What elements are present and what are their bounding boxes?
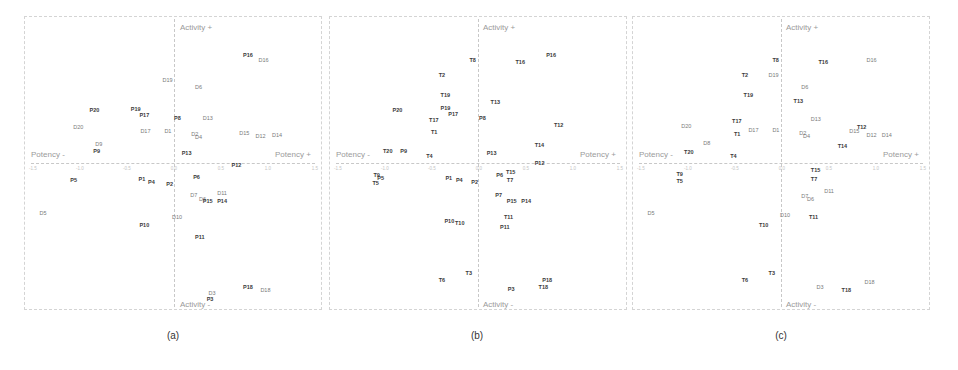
data-point-label: D1 bbox=[772, 128, 779, 134]
data-point-label: T10 bbox=[759, 223, 768, 229]
data-point-label: P18 bbox=[243, 285, 253, 291]
data-point-label: P4 bbox=[148, 180, 155, 186]
x-tick-label: -0.5 bbox=[428, 166, 436, 171]
data-point-label: P5 bbox=[70, 178, 77, 184]
data-point-label: P9 bbox=[93, 149, 100, 155]
data-point-label: T13 bbox=[794, 99, 803, 105]
x-tick-label: 0.5 bbox=[826, 166, 832, 171]
data-point-label: P20 bbox=[90, 108, 100, 114]
data-point-label: D3 bbox=[817, 285, 824, 291]
data-point-label: T18 bbox=[842, 288, 851, 294]
data-point-label: D20 bbox=[681, 124, 691, 130]
data-point-label: P1 bbox=[445, 176, 452, 182]
data-point-label: D14 bbox=[882, 133, 892, 139]
x-tick-label: -1.0 bbox=[684, 166, 692, 171]
caption-a: (a) bbox=[167, 330, 179, 341]
potency-positive-label: Potency + bbox=[883, 150, 919, 159]
potency-negative-label: Potency - bbox=[336, 150, 370, 159]
data-point-label: D19 bbox=[769, 73, 779, 79]
data-point-label: D12 bbox=[256, 134, 266, 140]
x-tick-label: 1.5 bbox=[920, 166, 926, 171]
activity-positive-label: Activity + bbox=[483, 23, 515, 32]
potency-positive-label: Potency + bbox=[580, 150, 616, 159]
data-point-label: P18 bbox=[542, 278, 552, 284]
data-point-label: T14 bbox=[535, 143, 544, 149]
data-point-label: P10 bbox=[444, 219, 454, 225]
data-point-label: P17 bbox=[139, 113, 149, 119]
caption-c: (c) bbox=[775, 330, 787, 341]
data-point-label: D15 bbox=[239, 131, 249, 137]
data-point-label: P12 bbox=[535, 161, 545, 167]
x-tick-label: 1.5 bbox=[312, 166, 318, 171]
data-point-label: P10 bbox=[139, 223, 149, 229]
data-point-label: T20 bbox=[383, 149, 392, 155]
data-point-label: T11 bbox=[809, 215, 818, 221]
data-point-label: D7 bbox=[190, 193, 197, 199]
data-point-label: T6 bbox=[742, 278, 748, 284]
data-point-label: D5 bbox=[40, 211, 47, 217]
data-point-label: D11 bbox=[217, 191, 227, 197]
data-point-label: D10 bbox=[172, 215, 182, 221]
data-point-label: T15 bbox=[811, 168, 820, 174]
data-point-label: P16 bbox=[243, 53, 253, 59]
data-point-label: P3 bbox=[508, 287, 515, 293]
data-point-label: D6 bbox=[807, 197, 814, 203]
data-point-label: T8 bbox=[469, 58, 475, 64]
data-point-label: P3 bbox=[207, 297, 214, 303]
x-tick-label: 1.0 bbox=[873, 166, 879, 171]
data-point-label: P13 bbox=[487, 151, 497, 157]
data-point-label: D4 bbox=[195, 135, 202, 141]
data-point-label: P20 bbox=[393, 108, 403, 114]
data-point-label: T20 bbox=[684, 150, 693, 156]
data-point-label: P14 bbox=[217, 199, 227, 205]
data-point-label: D19 bbox=[162, 78, 172, 84]
data-point-label: T15 bbox=[506, 170, 515, 176]
data-point-label: D10 bbox=[780, 213, 790, 219]
data-point-label: T16 bbox=[515, 60, 524, 66]
data-point-label: P7 bbox=[495, 193, 502, 199]
data-point-label: D1 bbox=[164, 129, 171, 135]
data-point-label: D16 bbox=[258, 58, 268, 64]
data-point-label: P11 bbox=[500, 225, 509, 231]
x-tick-label: 0.0 bbox=[779, 166, 785, 171]
scatter-panel-c: Activity + Activity - Potency - Potency … bbox=[632, 16, 930, 310]
data-point-label: P16 bbox=[546, 53, 556, 59]
x-tick-label: -1.0 bbox=[76, 166, 84, 171]
data-point-label: T1 bbox=[431, 130, 437, 136]
data-point-label: T12 bbox=[554, 123, 563, 129]
x-tick-label: -1.5 bbox=[637, 166, 645, 171]
data-point-label: T19 bbox=[441, 93, 450, 99]
data-point-label: D20 bbox=[73, 125, 83, 131]
activity-negative-label: Activity - bbox=[786, 300, 816, 309]
data-point-label: T5 bbox=[676, 179, 682, 185]
y-axis bbox=[174, 19, 175, 307]
activity-negative-label: Activity - bbox=[483, 300, 513, 309]
data-point-label: D18 bbox=[865, 280, 875, 286]
data-point-label: D8 bbox=[703, 141, 710, 147]
data-point-label: P9 bbox=[400, 149, 407, 155]
data-point-label: T7 bbox=[811, 177, 817, 183]
y-axis bbox=[781, 19, 782, 307]
data-point-label: P17 bbox=[448, 112, 458, 118]
data-point-label: T4 bbox=[730, 154, 736, 160]
x-tick-label: 0.0 bbox=[171, 166, 177, 171]
y-axis bbox=[478, 19, 479, 307]
data-point-label: D6 bbox=[801, 85, 808, 91]
x-tick-label: 1.0 bbox=[265, 166, 271, 171]
data-point-label: P2 bbox=[166, 182, 173, 188]
data-point-label: T4 bbox=[426, 154, 432, 160]
data-point-label: P13 bbox=[182, 151, 192, 157]
scatter-panel-a: Activity + Activity - Potency - Potency … bbox=[24, 16, 322, 310]
data-point-label: D13 bbox=[203, 116, 213, 122]
data-point-label: D15 bbox=[849, 129, 859, 135]
data-point-label: P6 bbox=[193, 175, 200, 181]
data-point-label: D6 bbox=[195, 85, 202, 91]
data-point-label: T8 bbox=[772, 58, 778, 64]
data-point-label: D13 bbox=[811, 117, 821, 123]
data-point-label: T2 bbox=[439, 73, 445, 79]
data-point-label: D17 bbox=[748, 128, 758, 134]
x-tick-label: 0.5 bbox=[523, 166, 529, 171]
x-tick-label: 1.5 bbox=[617, 166, 623, 171]
data-point-label: P8 bbox=[174, 116, 181, 122]
x-tick-label: 0.5 bbox=[218, 166, 224, 171]
